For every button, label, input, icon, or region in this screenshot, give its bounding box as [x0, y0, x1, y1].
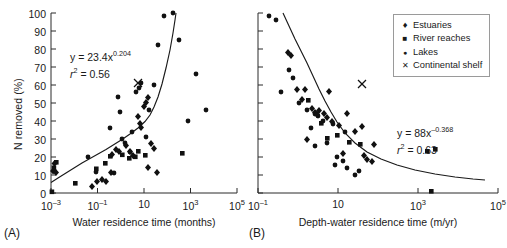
- panel-b-r2-value: = 0.63: [405, 143, 437, 155]
- river-reaches-series: [50, 149, 185, 194]
- circle-marker-icon: ●: [399, 46, 411, 59]
- x-marker-icon: ✕: [399, 59, 411, 72]
- x-tick-label: 10–1: [78, 198, 118, 212]
- legend-item-river-reaches: ■ River reaches: [399, 32, 482, 45]
- panel-b-tag: (B): [249, 226, 265, 240]
- square-marker-icon: ■: [399, 32, 411, 45]
- panel-a-x-axis-title: Water residence time (months): [34, 216, 254, 228]
- legend-item-continental-shelf: ✕ Continental shelf: [399, 59, 482, 72]
- x-tick-label: 103: [398, 198, 438, 212]
- panel-b-equation-exponent: –0.368: [431, 125, 453, 134]
- diamond-marker-icon: ♦: [399, 19, 411, 32]
- panel-a-tag: (A): [4, 226, 20, 240]
- legend-label-lakes: Lakes: [411, 46, 438, 59]
- continental-shelf-marker: [358, 80, 366, 88]
- panel-a: N removed (%) 100 90 80 70 60 50 40 30 2…: [0, 0, 254, 248]
- panel-a-equation-main: y = 23.4x: [70, 51, 113, 63]
- x-tick-label: 10: [124, 198, 164, 210]
- legend: ♦ Estuaries ■ River reaches ● Lakes ✕ Co…: [393, 14, 490, 77]
- x-tick-label: 10–1: [238, 198, 278, 212]
- x-tick-label: 105: [478, 198, 507, 212]
- legend-label-continental-shelf: Continental shelf: [411, 59, 482, 72]
- legend-item-lakes: ● Lakes: [399, 46, 482, 59]
- legend-label-river-reaches: River reaches: [411, 32, 470, 45]
- estuaries-series: [285, 49, 377, 165]
- legend-item-estuaries: ♦ Estuaries: [399, 19, 482, 32]
- panel-b-equation: y = 88x–0.368 r2 = 0.63: [397, 123, 453, 156]
- panel-a-equation-exponent: 0.204: [113, 49, 131, 58]
- estuaries-series: [50, 94, 160, 190]
- lakes-series: [267, 14, 362, 178]
- panel-b-x-axis-title: Depth-water residence time (m/yr): [268, 216, 488, 228]
- legend-label-estuaries: Estuaries: [411, 19, 452, 32]
- x-tick-label: 103: [171, 198, 211, 212]
- panel-a-equation: y = 23.4x0.204 r2 = 0.56: [70, 47, 131, 80]
- figure-root: N removed (%) 100 90 80 70 60 50 40 30 2…: [0, 0, 507, 248]
- panel-a-r2-value: = 0.56: [78, 67, 110, 79]
- x-tick-label: 10–3: [31, 198, 71, 212]
- x-tick-label: 10: [318, 198, 358, 210]
- panel-b-equation-main: y = 88x: [397, 127, 431, 139]
